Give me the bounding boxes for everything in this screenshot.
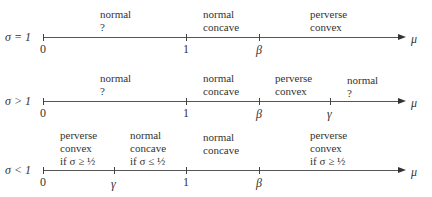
tick-label-gamma: γ	[111, 178, 116, 190]
tick-one	[186, 98, 187, 105]
region-label: normal	[203, 9, 234, 20]
region-label: perverse	[275, 73, 312, 84]
tick-zero	[43, 98, 44, 105]
region-label: concave	[130, 143, 166, 154]
tick-label-one: 1	[183, 107, 189, 119]
region-label: normal	[100, 73, 131, 84]
tick-beta	[259, 98, 260, 105]
region-label: perverse	[60, 130, 97, 141]
region-label: convex	[310, 143, 342, 154]
axis-label-mu: μ	[411, 33, 417, 45]
tick-label-beta: β	[256, 108, 262, 120]
axis-line	[43, 101, 403, 102]
region-label: normal	[130, 130, 161, 141]
region-label: ?	[100, 86, 105, 97]
region-label: normal	[100, 9, 131, 20]
tick-gamma	[330, 98, 331, 105]
axis-label-mu: μ	[411, 97, 417, 109]
region-label: if σ ≥ ½	[60, 156, 95, 167]
region-label: convex	[60, 143, 92, 154]
tick-zero	[43, 167, 44, 174]
region-label: normal	[203, 73, 234, 84]
region-label: perverse	[310, 9, 347, 20]
tick-label-zero: 0	[40, 176, 46, 188]
region-label: concave	[203, 145, 239, 156]
region-label: ?	[347, 88, 352, 99]
region-label: if σ ≥ ½	[310, 156, 345, 167]
tick-label-zero: 0	[40, 43, 46, 55]
region-label: concave	[203, 22, 239, 33]
tick-beta	[259, 167, 260, 174]
region-label: concave	[203, 86, 239, 97]
region-label: normal	[203, 132, 234, 143]
tick-zero	[43, 34, 44, 41]
tick-beta	[259, 34, 260, 41]
region-label: ?	[100, 22, 105, 33]
row-label: σ < 1	[5, 164, 31, 176]
region-label: normal	[347, 75, 378, 86]
axis-line	[43, 37, 403, 38]
row-label: σ = 1	[5, 31, 31, 43]
region-label: convex	[310, 22, 342, 33]
tick-label-one: 1	[183, 176, 189, 188]
region-label: perverse	[310, 130, 347, 141]
tick-label-gamma: γ	[327, 108, 332, 120]
tick-label-zero: 0	[40, 107, 46, 119]
tick-label-beta: β	[256, 177, 262, 189]
axis-label-mu: μ	[411, 166, 417, 178]
tick-one	[186, 34, 187, 41]
region-label: if σ ≤ ½	[130, 156, 165, 167]
region-label: convex	[275, 86, 307, 97]
axis-line	[43, 170, 403, 171]
arrow-head-icon	[398, 167, 406, 173]
arrow-head-icon	[398, 34, 406, 40]
row-label: σ > 1	[5, 95, 31, 107]
tick-gamma	[114, 167, 115, 174]
tick-label-beta: β	[256, 44, 262, 56]
tick-label-one: 1	[183, 43, 189, 55]
arrow-head-icon	[398, 98, 406, 104]
tick-one	[186, 167, 187, 174]
